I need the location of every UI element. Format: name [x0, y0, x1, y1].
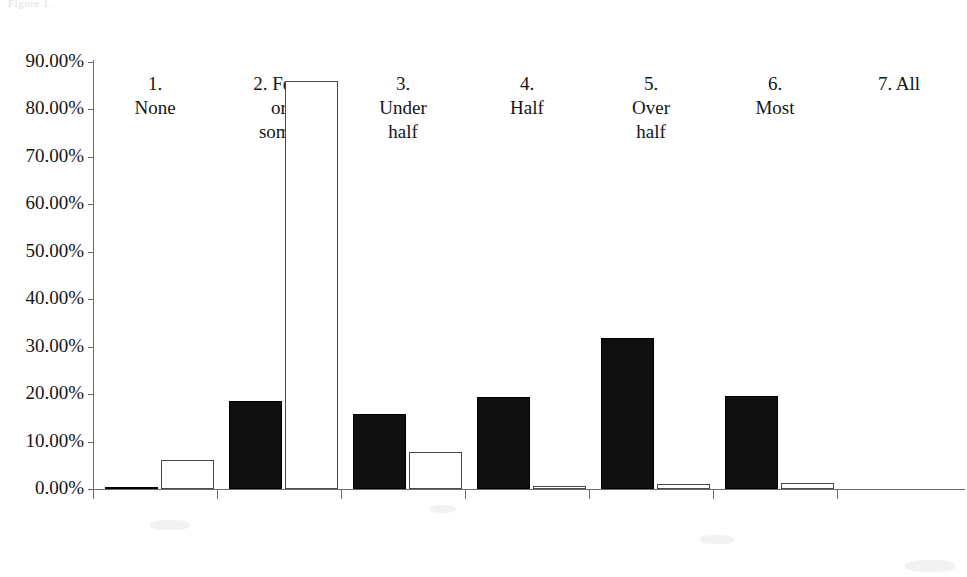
plot-area: 0.00%10.00%20.00%30.00%40.00%50.00%60.00…	[93, 62, 965, 489]
y-axis-tick-label: 70.00%	[25, 146, 84, 166]
bar-series2-cat1	[161, 460, 214, 489]
scan-noise	[905, 560, 955, 572]
x-axis-category-label: 5. Over half	[591, 72, 711, 144]
bar-series2-cat6	[781, 483, 834, 489]
bar-series1-cat2	[229, 401, 282, 489]
x-axis-tick	[341, 489, 342, 499]
scan-noise	[430, 505, 456, 513]
x-axis-category-label: 6. Most	[715, 72, 835, 120]
y-axis-tick-label: 60.00%	[25, 193, 84, 213]
x-axis-tick	[589, 489, 590, 499]
bar-series1-cat5	[601, 338, 654, 489]
x-axis-category-label: 4. Half	[467, 72, 587, 120]
y-axis-tick-label: 30.00%	[25, 336, 84, 356]
y-axis-tick	[88, 109, 94, 110]
figure-caption: Figure 1.	[8, 0, 52, 9]
x-axis-category-label: 1. None	[95, 72, 215, 120]
scan-noise	[150, 520, 190, 530]
x-axis-tick	[837, 489, 838, 499]
bar-series2-cat5	[657, 484, 710, 489]
y-axis-tick-label: 90.00%	[25, 51, 84, 71]
y-axis-tick	[88, 157, 94, 158]
x-axis-line	[93, 489, 965, 490]
bar-series1-cat6	[725, 396, 778, 489]
y-axis-tick-label: 40.00%	[25, 288, 84, 308]
y-axis-tick-label: 20.00%	[25, 383, 84, 403]
y-axis-tick	[88, 442, 94, 443]
bar-series1-cat4	[477, 397, 530, 489]
y-axis-tick	[88, 394, 94, 395]
x-axis-tick	[93, 489, 94, 499]
y-axis-tick	[88, 62, 94, 63]
bar-chart: Figure 1. 0.00%10.00%20.00%30.00%40.00%5…	[0, 0, 967, 577]
y-axis-tick-label: 50.00%	[25, 241, 84, 261]
scan-noise	[700, 535, 734, 544]
x-axis-tick	[217, 489, 218, 499]
y-axis-tick	[88, 252, 94, 253]
x-axis-tick	[465, 489, 466, 499]
bar-series1-cat3	[353, 414, 406, 489]
y-axis-tick-label: 10.00%	[25, 431, 84, 451]
bar-series2-cat2	[285, 81, 338, 489]
x-axis-category-label: 7. All	[839, 72, 959, 96]
bar-series1-cat1	[105, 487, 158, 489]
y-axis-tick	[88, 204, 94, 205]
y-axis-tick-label: 0.00%	[35, 478, 84, 498]
x-axis-category-label: 3. Under half	[343, 72, 463, 144]
y-axis-tick	[88, 347, 94, 348]
bar-series2-cat3	[409, 452, 462, 489]
y-axis-tick-label: 80.00%	[25, 98, 84, 118]
y-axis-tick	[88, 299, 94, 300]
bar-series2-cat4	[533, 486, 586, 489]
x-axis-tick	[713, 489, 714, 499]
